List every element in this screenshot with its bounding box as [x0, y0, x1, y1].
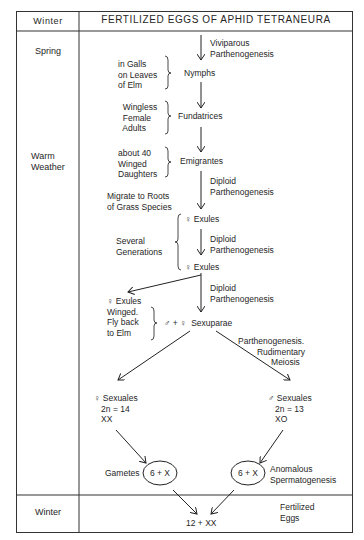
- stage-male-sexuales: ♂ Sexuales 2n = 13 XO: [268, 393, 312, 425]
- arrow-male-to-gamete: [260, 430, 283, 463]
- stage-sexuparae: ♂ + ♀ Sexuparae: [164, 318, 232, 329]
- stage-fundatrices: Fundatrices: [178, 111, 222, 122]
- season-spring: Spring: [17, 46, 79, 57]
- stage-exules-1: ♀ Exules: [185, 214, 219, 225]
- brace-wingless: [165, 101, 171, 134]
- arrow-male-gamete-to-zygote: [211, 490, 234, 514]
- annotation-gametes: Gametes: [105, 468, 140, 479]
- annotation-winged-daughters: about 40 Winged Daughters: [118, 148, 157, 180]
- label-diploid-parthenogenesis-1: Diploid Parthenogenesis: [210, 176, 274, 197]
- annotation-galls: in Galls on Leaves of Elm: [118, 59, 157, 91]
- annotation-several-generations: Several Generations: [116, 236, 162, 257]
- aphid-life-cycle-diagram: Winter FERTILIZED EGGS OF APHID TETRANEU…: [0, 0, 364, 540]
- annotation-fertilized-eggs: Fertilized Eggs: [280, 502, 314, 523]
- label-rudimentary-meiosis: Parthenogenesis. Rudimentary Meiosis: [238, 336, 305, 368]
- brace-winged-exules: [151, 307, 157, 340]
- zygote: 12 + XX: [186, 518, 216, 529]
- label-diploid-parthenogenesis-2: Diploid Parthenogenesis: [210, 234, 274, 255]
- stage-nymphs: Nymphs: [184, 68, 215, 79]
- diagram-title: FERTILIZED EGGS OF APHID TETRANEURA: [80, 15, 352, 26]
- stage-emigrantes: Emigrantes: [180, 156, 223, 167]
- arrow-exules-to-winged-exules: [128, 275, 201, 292]
- annotation-migrate-to-roots: Migrate to Roots of Grass Species: [107, 191, 172, 212]
- season-winter-bottom: Winter: [17, 507, 79, 518]
- gamete-male: 6 + X: [231, 468, 265, 479]
- gamete-female: 6 + X: [143, 468, 177, 479]
- brace-winged-daughters: [165, 147, 171, 177]
- label-anomalous-spermatogenesis: Anomalous Spermatogenesis: [270, 464, 336, 485]
- stage-exules-2: ♀ Exules: [185, 262, 219, 273]
- season-warm-weather: Warm Weather: [31, 151, 65, 172]
- annotation-exules-winged-fly-back: ♀ Exules Winged. Fly back to Elm: [107, 296, 141, 338]
- annotation-wingless-female-adults: Wingless Female Adults: [118, 102, 157, 134]
- arrow-female-to-gamete: [116, 430, 146, 463]
- brace-galls: [165, 56, 171, 89]
- label-diploid-parthenogenesis-3: Diploid Parthenogenesis: [210, 283, 274, 304]
- stage-female-sexuales: ♀ Sexuales 2n = 14 XX: [94, 393, 138, 425]
- diagram-lines: [0, 0, 364, 540]
- label-viviparous-parthenogenesis: Viviparous Parthenogenesis: [210, 38, 274, 59]
- arrow-female-gamete-to-zygote: [173, 490, 197, 514]
- brace-several-generations: [175, 214, 181, 270]
- season-winter-top: Winter: [17, 16, 79, 27]
